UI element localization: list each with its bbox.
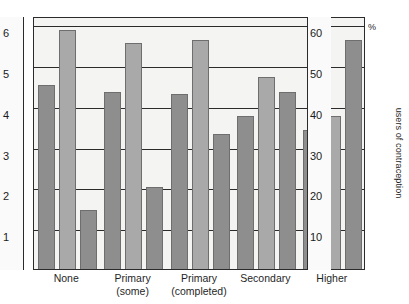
y-tick-label-left: 1 <box>3 231 9 243</box>
x-axis-label: Higher <box>282 272 382 285</box>
bar <box>125 43 142 269</box>
y-tick-label-right: 50 <box>310 68 322 80</box>
percent-symbol: % <box>368 22 376 32</box>
bar <box>104 92 121 270</box>
y-tick-label-right: 60 <box>310 27 322 39</box>
y-tick-label-left: 4 <box>3 109 9 121</box>
y-axis-left-ticks: 123456 <box>0 17 24 270</box>
bar <box>171 94 188 269</box>
bar <box>146 187 163 269</box>
bar <box>38 85 55 269</box>
y-tick-label-left: 3 <box>3 150 9 162</box>
y-axis-right-title: users of contraception <box>394 83 404 223</box>
y-tick-label-left: 6 <box>3 27 9 39</box>
x-axis-category-labels: NonePrimary(some)Primary(completed)Secon… <box>33 272 365 304</box>
bar <box>237 116 254 269</box>
bar <box>80 210 97 269</box>
bar <box>59 30 76 269</box>
bar <box>345 40 362 269</box>
bar <box>279 92 296 270</box>
y-tick-label-right: 30 <box>310 150 322 162</box>
chart-figure: number of children users of contraceptio… <box>0 0 409 304</box>
y-tick-label-left: 5 <box>3 68 9 80</box>
y-tick-label-right: 10 <box>310 231 322 243</box>
y-tick-label-right: 20 <box>310 190 322 202</box>
y-tick-label-right: 40 <box>310 109 322 121</box>
bar <box>213 134 230 269</box>
bar <box>258 77 275 269</box>
y-tick-label-left: 2 <box>3 190 9 202</box>
bar <box>192 40 209 269</box>
y-axis-right-ticks: 102030405060 <box>307 17 331 270</box>
